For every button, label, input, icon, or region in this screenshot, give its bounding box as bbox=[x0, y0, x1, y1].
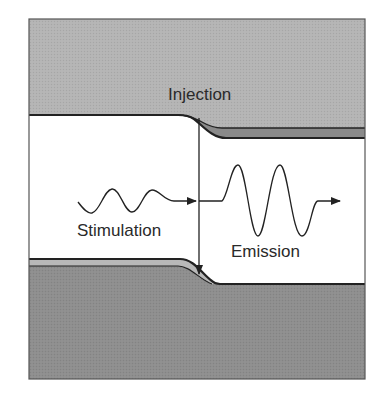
stimulation-wave bbox=[78, 189, 196, 213]
emission-wave bbox=[199, 165, 340, 236]
laser-diagram: Injection Stimulation Emission bbox=[0, 0, 386, 406]
upper-region bbox=[29, 19, 365, 138]
lower-region bbox=[29, 259, 365, 379]
stimulation-label: Stimulation bbox=[77, 221, 161, 240]
emission-label: Emission bbox=[231, 242, 300, 261]
injection-label: Injection bbox=[168, 85, 231, 104]
